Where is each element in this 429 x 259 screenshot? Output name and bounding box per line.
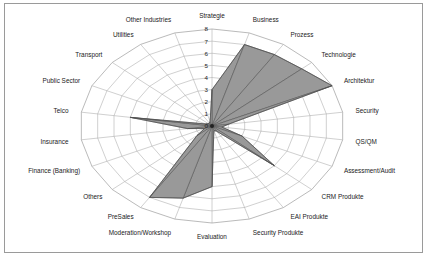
radar-chart-svg: 012345678 StrategieBusinessProzessTechno… (5, 4, 422, 252)
axis-category-label: Utilities (113, 31, 134, 38)
axis-category-label: Others (83, 193, 102, 200)
axis-category-label: Insurance (40, 138, 69, 145)
axis-category-label: Transport (75, 51, 102, 59)
axis-category-label: EAI Produkte (290, 213, 328, 220)
radial-tick-label: 1 (205, 110, 209, 117)
chart-frame: 012345678 StrategieBusinessProzessTechno… (4, 3, 423, 253)
axis-category-label: Evaluation (197, 233, 227, 240)
axis-category-label: Public Sector (42, 77, 81, 84)
axis-category-label: Technologie (322, 51, 357, 59)
axis-category-label: Other Industries (126, 16, 171, 23)
radial-tick-label: 5 (205, 62, 209, 69)
axis-category-label: Security (356, 107, 380, 115)
radial-tick-label: 3 (205, 86, 209, 93)
radial-tick-label: 8 (205, 25, 209, 32)
center-point (210, 124, 214, 128)
series-wedge (130, 117, 212, 128)
axis-category-label: PreSales (108, 213, 134, 220)
radar-chart: 012345678 StrategieBusinessProzessTechno… (5, 4, 422, 252)
radial-tick-label: 6 (205, 50, 209, 57)
radial-tick-label: 0 (205, 122, 209, 129)
axis-category-label: Security Produkte (253, 229, 304, 237)
axis-category-label: Business (253, 16, 279, 23)
radial-tick-label: 7 (205, 38, 209, 45)
axis-category-label: Architektur (344, 77, 375, 84)
axis-category-label: Assessment/Audit (344, 167, 395, 174)
radial-tick-label: 2 (205, 98, 209, 105)
axis-category-label: Finance (Banking) (28, 167, 80, 175)
axis-category-label: QS/QM (356, 138, 377, 146)
axis-category-label: Prozess (290, 31, 313, 38)
tick-label-layer: 012345678 (205, 25, 209, 129)
grid-spoke (112, 62, 212, 126)
axis-category-label: CRM Produkte (322, 193, 364, 200)
radial-tick-label: 4 (205, 74, 209, 81)
axis-category-label: Telco (54, 107, 69, 114)
axis-category-label: Strategie (199, 12, 225, 20)
axis-category-label: Moderation/Workshop (109, 229, 172, 237)
